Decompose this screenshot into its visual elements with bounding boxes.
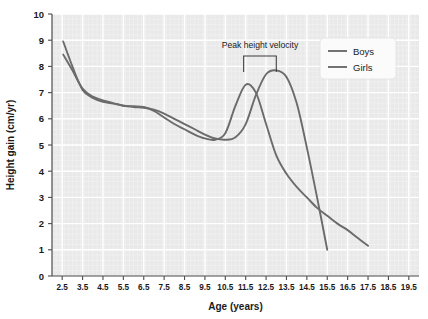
y-tick-label: 10: [33, 9, 44, 20]
x-tick-label: 12.5: [258, 283, 274, 292]
y-axis-title: Height gain (cm/yr): [5, 100, 16, 191]
chart-figure: 2.53.54.55.56.57.58.59.510.511.512.513.5…: [0, 0, 428, 319]
x-tick-label: 16.5: [340, 283, 356, 292]
x-tick-label: 3.5: [77, 283, 89, 292]
x-tick-label: 14.5: [299, 283, 315, 292]
y-tick-label: 6: [39, 113, 44, 124]
annotation-label: Peak height velocity: [222, 40, 299, 50]
x-tick-label: 9.5: [199, 283, 211, 292]
y-tick-label: 3: [39, 192, 44, 203]
legend-label-girls: Girls: [353, 62, 373, 73]
y-tick-label: 4: [39, 166, 45, 177]
x-tick-label: 8.5: [179, 283, 191, 292]
x-tick-label: 13.5: [279, 283, 295, 292]
legend-box: [320, 38, 396, 79]
y-axis-tick-labels: 012345678910: [33, 9, 44, 282]
y-tick-label: 9: [39, 35, 44, 46]
x-tick-label: 5.5: [118, 283, 130, 292]
x-tick-label: 15.5: [319, 283, 335, 292]
x-tick-label: 6.5: [138, 283, 150, 292]
y-tick-label: 7: [39, 87, 44, 98]
y-tick-label: 5: [39, 140, 45, 151]
chart-legend: BoysGirls: [320, 38, 396, 79]
x-axis-title: Age (years): [208, 301, 262, 312]
x-tick-label: 17.5: [360, 283, 376, 292]
height-velocity-line-chart: 2.53.54.55.56.57.58.59.510.511.512.513.5…: [0, 0, 428, 319]
x-tick-label: 11.5: [238, 283, 254, 292]
x-tick-label: 7.5: [158, 283, 170, 292]
x-tick-label: 18.5: [380, 283, 396, 292]
x-tick-label: 19.5: [401, 283, 417, 292]
y-tick-label: 8: [39, 61, 44, 72]
x-tick-label: 2.5: [56, 283, 68, 292]
y-tick-label: 1: [39, 244, 45, 255]
x-axis-tick-labels: 2.53.54.55.56.57.58.59.510.511.512.513.5…: [56, 283, 417, 292]
x-tick-label: 10.5: [217, 283, 233, 292]
y-tick-label: 2: [39, 218, 44, 229]
x-tick-label: 4.5: [97, 283, 109, 292]
y-tick-label: 0: [39, 271, 44, 282]
legend-label-boys: Boys: [353, 46, 374, 57]
